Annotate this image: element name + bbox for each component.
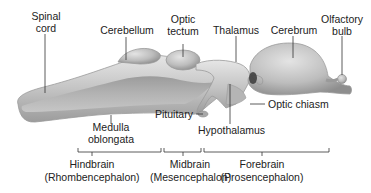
label-olfactory-bulb: Olfactory bulb bbox=[315, 13, 369, 37]
region-hindbrain: Hindbrain (Rhombencephalon) bbox=[44, 158, 140, 183]
label-thalamus: Thalamus bbox=[209, 24, 263, 36]
vertebrate-brain-diagram: Spinal cord Cerebellum Optic tectum Thal… bbox=[0, 0, 371, 193]
label-pituitary: Pituitary bbox=[152, 108, 196, 120]
lateral-ventricle-opening bbox=[249, 72, 257, 84]
cerebellum-shape bbox=[118, 48, 160, 64]
olfactory-bulb-shape bbox=[338, 75, 347, 84]
label-cerebellum: Cerebellum bbox=[97, 24, 157, 36]
label-hypothalamus: Hypothalamus bbox=[198, 124, 264, 136]
label-spinal-cord: Spinal cord bbox=[30, 10, 62, 34]
label-optic-chiasm: Optic chiasm bbox=[268, 98, 329, 110]
label-medulla-oblongata: Medulla oblongata bbox=[81, 121, 141, 145]
label-optic-tectum: Optic tectum bbox=[164, 13, 202, 37]
region-brackets bbox=[78, 148, 329, 156]
cerebrum-shape bbox=[248, 43, 352, 95]
region-forebrain: Forebrain (Prosencephalon) bbox=[217, 158, 307, 183]
label-cerebrum: Cerebrum bbox=[267, 24, 321, 36]
